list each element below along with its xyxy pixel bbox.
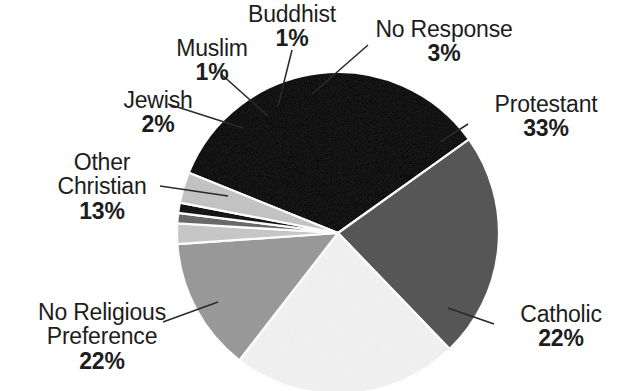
slice-label-buddhist-name: Buddhist <box>222 2 362 26</box>
slice-label-muslim-value: 1% <box>150 60 274 84</box>
slice-label-jewish-value: 2% <box>95 112 221 136</box>
slice-label-protestant-name: Protestant <box>472 92 620 116</box>
slice-label-protestant: Protestant 33% <box>472 92 620 141</box>
slice-label-other-christian-name-line2: Christian <box>22 174 182 198</box>
slice-label-other-christian-value: 13% <box>22 199 182 223</box>
slice-label-muslim: Muslim 1% <box>150 36 274 85</box>
slice-label-no-religious-preference-name-line1: No Religious <box>0 300 206 324</box>
slice-label-catholic-value: 22% <box>500 326 621 350</box>
slice-label-muslim-name: Muslim <box>150 36 274 60</box>
slice-label-other-christian: Other Christian 13% <box>22 150 182 223</box>
slice-label-other-christian-name-line1: Other <box>22 150 182 174</box>
slice-label-no-response-value: 3% <box>352 41 536 65</box>
pie-chart-figure: Buddhist 1% Muslim 1% Jewish 2% Other Ch… <box>0 0 621 391</box>
slice-label-no-response-name: No Response <box>352 17 536 41</box>
slice-label-catholic-name: Catholic <box>500 302 621 326</box>
slice-label-jewish: Jewish 2% <box>95 88 221 137</box>
slice-label-catholic: Catholic 22% <box>500 302 621 351</box>
pie-slices-group <box>177 72 499 391</box>
slice-label-protestant-value: 33% <box>472 116 620 140</box>
slice-label-jewish-name: Jewish <box>95 88 221 112</box>
slice-label-no-religious-preference-value: 22% <box>0 349 206 373</box>
slice-label-no-response: No Response 3% <box>352 17 536 66</box>
slice-label-no-religious-preference-name-line2: Preference <box>0 324 206 348</box>
slice-label-no-religious-preference: No Religious Preference 22% <box>0 300 206 373</box>
